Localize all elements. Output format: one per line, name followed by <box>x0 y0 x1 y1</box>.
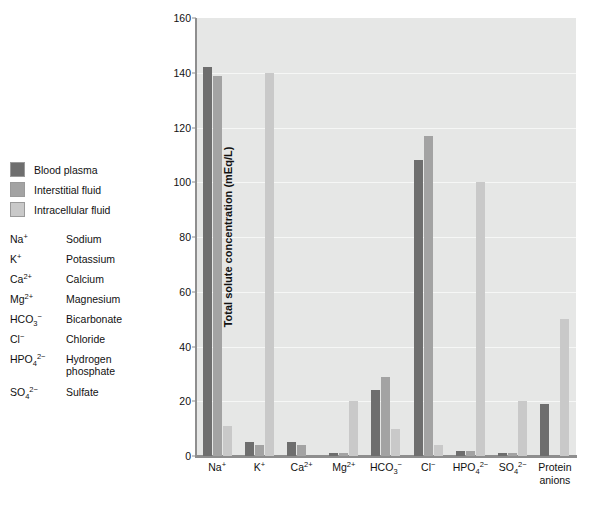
ion-key-row: HCO3−Bicarbonate <box>10 313 160 325</box>
ion-key-row: Cl−Chloride <box>10 333 160 345</box>
bar[interactable] <box>329 453 338 456</box>
bar[interactable] <box>371 390 380 456</box>
x-axis-tick-label: Ca2+ <box>280 461 322 474</box>
chart: 020406080100120140160 Total solute conce… <box>196 18 576 456</box>
ion-key-symbol: HCO3− <box>10 313 66 325</box>
bar[interactable] <box>297 445 306 456</box>
x-axis-tick-label: Proteinanions <box>534 461 576 486</box>
chart-key-panel: Blood plasma Interstitial fluid Intracel… <box>10 160 160 406</box>
x-axis-tick-label: SO42− <box>492 461 534 474</box>
y-axis-tick-label: 80 <box>179 231 191 243</box>
legend-item-blood-plasma: Blood plasma <box>10 160 160 179</box>
bar-group <box>280 18 322 456</box>
legend: Blood plasma Interstitial fluid Intracel… <box>10 160 160 219</box>
y-axis-tick-label: 120 <box>173 122 191 134</box>
ion-key-name: Potassium <box>66 253 115 265</box>
y-axis-tick-label: 160 <box>173 12 191 24</box>
bar[interactable] <box>391 429 400 456</box>
ion-key-name: Sodium <box>66 233 102 245</box>
legend-item-interstitial-fluid: Interstitial fluid <box>10 180 160 199</box>
ion-key-name: Bicarbonate <box>66 313 122 325</box>
legend-swatch-interstitial-fluid <box>10 182 25 197</box>
ion-key-symbol: HPO42− <box>10 353 66 365</box>
bar-group <box>323 18 365 456</box>
bar[interactable] <box>213 76 222 457</box>
ion-key-row: SO42−Sulfate <box>10 386 160 398</box>
x-axis-tick-label: HCO3− <box>365 461 407 474</box>
bar[interactable] <box>508 453 517 456</box>
x-axis-tick-label: Cl− <box>407 461 449 474</box>
bar[interactable] <box>540 404 549 456</box>
ion-key-row: Na+Sodium <box>10 233 160 245</box>
bar[interactable] <box>466 451 475 456</box>
ion-key-symbol: Cl− <box>10 333 66 345</box>
bar[interactable] <box>434 445 443 456</box>
bar-group <box>492 18 534 456</box>
ion-key-name: Calcium <box>66 273 104 285</box>
bar[interactable] <box>255 445 264 456</box>
ion-key-name: Magnesium <box>66 293 120 305</box>
bar[interactable] <box>414 160 423 456</box>
bar[interactable] <box>339 453 348 456</box>
ion-key-row: K+Potassium <box>10 253 160 265</box>
ion-key-name: Chloride <box>66 333 105 345</box>
bars-layer <box>196 18 576 456</box>
y-axis-tick-label: 100 <box>173 176 191 188</box>
ion-key-symbol: Mg2+ <box>10 293 66 305</box>
bar[interactable] <box>287 442 296 456</box>
bar-group <box>407 18 449 456</box>
bar[interactable] <box>203 67 212 456</box>
bar-group <box>534 18 576 456</box>
bar[interactable] <box>456 451 465 456</box>
x-axis-tick-label: Mg2+ <box>323 461 365 474</box>
bar-group <box>196 18 238 456</box>
bar[interactable] <box>245 442 254 456</box>
ion-key-symbol: K+ <box>10 253 66 265</box>
x-axis-tick-label: Na+ <box>196 461 238 474</box>
bar[interactable] <box>223 426 232 456</box>
legend-label-interstitial-fluid: Interstitial fluid <box>34 184 101 196</box>
ion-key-row: Mg2+Magnesium <box>10 293 160 305</box>
x-axis-tick-label: K+ <box>238 461 280 474</box>
legend-swatch-blood-plasma <box>10 162 25 177</box>
y-axis-tick-label: 40 <box>179 341 191 353</box>
bar[interactable] <box>476 182 485 456</box>
legend-item-intracellular-fluid: Intracellular fluid <box>10 200 160 219</box>
bar[interactable] <box>498 453 507 456</box>
ion-key-row: Ca2+Calcium <box>10 273 160 285</box>
bar-group <box>449 18 491 456</box>
legend-swatch-intracellular-fluid <box>10 202 25 217</box>
bar[interactable] <box>265 73 274 456</box>
legend-label-intracellular-fluid: Intracellular fluid <box>34 204 110 216</box>
bar-group <box>238 18 280 456</box>
ion-key-symbol: Ca2+ <box>10 273 66 285</box>
ion-key-name: Sulfate <box>66 386 99 398</box>
ion-abbreviation-key: Na+SodiumK+PotassiumCa2+CalciumMg2+Magne… <box>10 233 160 398</box>
y-axis-tick-label: 140 <box>173 67 191 79</box>
y-axis-tick-label: 20 <box>179 395 191 407</box>
bar[interactable] <box>518 401 527 456</box>
ion-key-symbol: SO42− <box>10 386 66 398</box>
bar[interactable] <box>381 377 390 456</box>
y-axis-tick-label: 0 <box>185 450 191 462</box>
ion-key-name: Hydrogenphosphate <box>66 353 115 377</box>
bar[interactable] <box>424 136 433 456</box>
x-axis-tick-label: HPO42− <box>449 461 491 474</box>
bar-group <box>365 18 407 456</box>
ion-key-row: HPO42−Hydrogenphosphate <box>10 353 160 377</box>
y-axis-tick-label: 60 <box>179 286 191 298</box>
bar[interactable] <box>349 401 358 456</box>
legend-label-blood-plasma: Blood plasma <box>34 164 98 176</box>
bar[interactable] <box>560 319 569 456</box>
ion-key-symbol: Na+ <box>10 233 66 245</box>
